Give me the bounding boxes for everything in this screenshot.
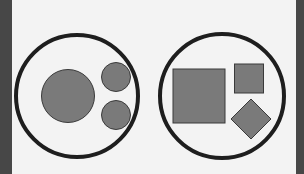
small-circle-top xyxy=(102,63,131,92)
small-square xyxy=(235,64,264,93)
large-circle xyxy=(42,70,95,123)
circles-group xyxy=(16,35,138,157)
small-circle-bottom xyxy=(102,101,131,130)
large-square xyxy=(173,69,225,123)
diagram-canvas xyxy=(0,0,304,174)
diamond xyxy=(231,99,271,139)
squares-group xyxy=(160,34,284,158)
diagram-svg xyxy=(0,0,304,174)
